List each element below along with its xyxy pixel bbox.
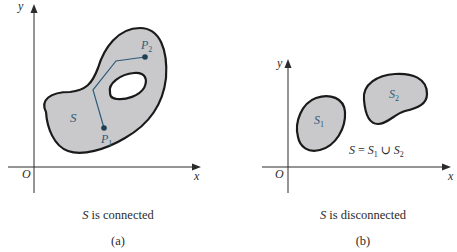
panel-a-y-axis-label: y xyxy=(18,0,23,14)
panel-b-axes xyxy=(262,59,451,193)
region-s2-label: S2 xyxy=(389,87,399,103)
subfigure-label-b: (b) xyxy=(303,234,423,249)
union-equation: S = S1 ∪ S2 xyxy=(349,143,404,159)
point-p2-label: P2 xyxy=(141,38,152,54)
caption-a-text: is connected xyxy=(88,208,153,222)
panel-b-x-axis-label: x xyxy=(448,169,453,184)
point-p2-dot xyxy=(142,54,148,60)
p1-subscript: 1 xyxy=(108,139,112,148)
region-s-label: S xyxy=(70,110,77,126)
eq-union: ∪ xyxy=(378,143,394,157)
panel-a-origin-label: O xyxy=(22,167,31,182)
y-axis-arrow-icon xyxy=(285,59,292,68)
subfigure-label-a: (a) xyxy=(68,234,168,249)
panel-b-y-axis-label: y xyxy=(277,56,282,71)
eq-s2-subscript: 2 xyxy=(400,150,404,159)
p2-subscript: 2 xyxy=(148,45,152,54)
s2-subscript: 2 xyxy=(395,94,399,103)
eq-sign: = xyxy=(355,143,368,157)
panel-a-x-axis-label: x xyxy=(194,169,199,184)
point-p1-dot xyxy=(101,125,107,131)
y-axis-arrow-icon xyxy=(31,4,38,13)
panel-b-origin-label: O xyxy=(275,167,284,182)
caption-a: S is connected xyxy=(68,208,168,223)
point-p1-label: P1 xyxy=(101,132,112,148)
caption-b-text: is disconnected xyxy=(326,208,406,222)
caption-b: S is disconnected xyxy=(303,208,423,223)
s1-subscript: 1 xyxy=(320,120,324,129)
region-s1-label: S1 xyxy=(314,113,324,129)
